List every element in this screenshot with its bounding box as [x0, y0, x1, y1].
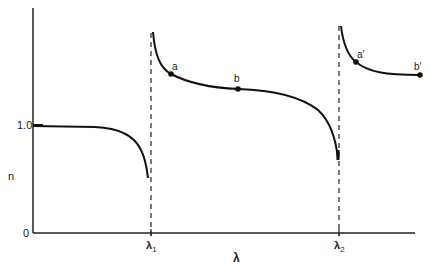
curve-segment-1: [33, 126, 148, 178]
y-tick-label-1: 1.0: [17, 119, 32, 131]
label-b-prime: b′: [414, 61, 422, 72]
lambda1-label: λ1: [146, 239, 157, 254]
dispersion-diagram: a b a′ b′ 1.0 0 n λ λ1 λ2: [0, 0, 431, 270]
y-axis-label: n: [8, 170, 14, 182]
y-tick-label-0: 0: [23, 227, 29, 239]
x-axis-label: λ: [233, 251, 240, 265]
label-b: b: [234, 73, 240, 84]
curve-segment-2: [153, 32, 338, 160]
point-a: [168, 71, 174, 77]
lambda2-subscript: 2: [340, 245, 345, 254]
curve-segment-3: [341, 26, 420, 75]
point-a-prime: [353, 59, 359, 65]
point-b: [235, 86, 241, 92]
label-a: a: [172, 61, 178, 72]
lambda1-subscript: 1: [152, 245, 157, 254]
label-a-prime: a′: [357, 49, 365, 60]
point-b-prime: [417, 72, 423, 78]
lambda2-label: λ2: [334, 239, 345, 254]
